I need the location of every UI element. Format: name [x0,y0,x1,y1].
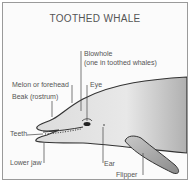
label-flipper: Flipper [116,171,137,179]
label-lower-jaw: Lower jaw [10,159,42,167]
label-blowhole-note: (one in toothed whales) [84,59,157,67]
whale-illustration [3,3,187,179]
label-eye: Eye [90,81,102,89]
diagram-title: TOOTHED WHALE [3,13,187,24]
label-blowhole: Blowhole [84,50,112,58]
label-ear: Ear [104,160,115,168]
diagram-frame: TOOTHED WHALE Blowhole (one in toothed w… [2,2,188,180]
label-teeth: Teeth [10,130,27,138]
label-melon: Melon or forehead [12,81,69,89]
label-beak: Beak (rostrum) [12,93,58,101]
